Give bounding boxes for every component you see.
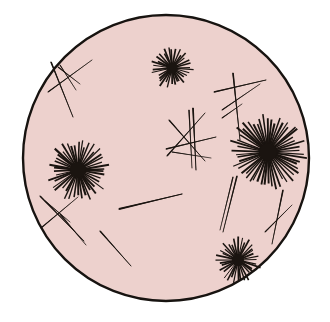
starburst-core: [259, 143, 277, 161]
microscopy-field-illustration: [0, 0, 330, 322]
starburst-core: [70, 162, 86, 178]
starburst-core: [232, 254, 244, 266]
starburst-core: [167, 63, 178, 74]
field-canvas: [0, 0, 330, 322]
